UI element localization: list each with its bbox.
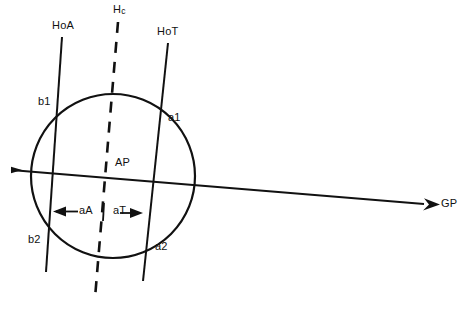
hc-dimension-tick	[103, 203, 104, 221]
label-hc-main: H	[113, 3, 121, 15]
gp-axis-line	[11, 170, 424, 204]
aT-arrow-head	[130, 208, 143, 218]
label-a1: a1	[168, 112, 181, 123]
gp-left-tip	[11, 167, 22, 173]
diagram-vector-graphics	[0, 0, 465, 311]
label-ap: AP	[115, 157, 130, 168]
gp-arrow-head	[423, 198, 440, 210]
hoa-axis-line	[46, 37, 62, 272]
label-aT: aT	[113, 205, 126, 216]
label-a2: a2	[155, 241, 168, 252]
label-aA: aA	[79, 205, 93, 216]
label-b1: b1	[38, 96, 51, 107]
label-hc-subscript: c	[121, 6, 125, 16]
aA-arrow-head	[53, 207, 66, 217]
label-hoa: HoA	[52, 20, 74, 31]
label-gp: GP	[441, 198, 457, 209]
diagram-canvas: HoA Hc HoT b1 a1 b2 a2 AP aA aT GP	[0, 0, 465, 311]
label-b2: b2	[28, 234, 41, 245]
label-hc: Hc	[113, 4, 126, 15]
label-hot: HoT	[157, 26, 178, 37]
